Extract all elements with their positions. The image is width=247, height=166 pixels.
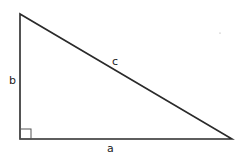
right-triangle-diagram: b c a [0,0,247,166]
label-a: a [107,142,114,155]
triangle [20,14,232,139]
speck [219,32,220,33]
label-b: b [9,74,16,87]
label-c: c [112,55,118,68]
right-angle-marker [20,129,31,139]
